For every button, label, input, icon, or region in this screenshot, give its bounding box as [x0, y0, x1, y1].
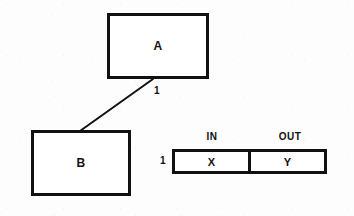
record-table[interactable]: X Y [172, 149, 327, 174]
edge-a-to-b [80, 79, 153, 131]
record-column-header-out: OUT [274, 131, 306, 142]
record-cell-out[interactable]: Y [251, 152, 324, 171]
entity-box-a-label: A [154, 39, 163, 53]
edge-cardinality-label-a-b: 1 [154, 85, 160, 96]
entity-box-b-label: B [77, 156, 86, 170]
record-column-header-in: IN [200, 131, 224, 142]
record-row-cardinality-label: 1 [160, 155, 166, 166]
entity-box-a[interactable]: A [107, 13, 209, 79]
record-cell-out-value: Y [284, 156, 291, 168]
entity-box-b[interactable]: B [31, 130, 131, 196]
diagram-canvas: A B 1 IN OUT 1 X Y [0, 0, 354, 216]
record-cell-in-value: X [208, 156, 215, 168]
record-cell-in[interactable]: X [175, 152, 251, 171]
